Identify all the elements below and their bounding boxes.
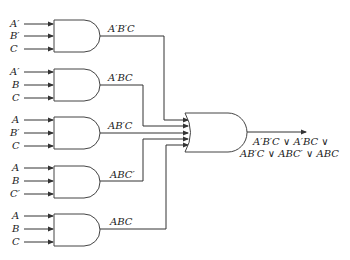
gate4-input-1-label: A xyxy=(11,162,19,173)
gate3-output-label: AB′C xyxy=(107,120,133,131)
logic-circuit-diagram: A′ B′ C A′B′C A′ B C A′BC A B′ C AB′C A … xyxy=(0,0,350,260)
gate1-output-label: A′B′C xyxy=(107,23,135,34)
gate2-input-2-label: B xyxy=(11,79,19,90)
gate5-input-3-label: C xyxy=(12,236,20,247)
and-gate-3-body xyxy=(54,117,100,149)
gate3-input-3-label: C xyxy=(12,140,20,151)
gate2-input-3-label: C xyxy=(12,92,20,103)
and-gate-1-body xyxy=(54,20,100,52)
gate3-input-1-label: A xyxy=(11,114,19,125)
gate2-output-label: A′BC xyxy=(107,72,133,83)
gate5-input-1-label: A xyxy=(11,210,19,221)
gate4-output-label: ABC′ xyxy=(109,169,135,180)
gate4-input-2-label: B xyxy=(11,175,19,186)
and-gate-5: A B C ABC xyxy=(11,145,188,247)
and-gate-2-body xyxy=(54,69,100,101)
gate1-input-3-label: C xyxy=(10,43,18,54)
gate2-input-1-label: A′ xyxy=(9,66,20,77)
or-gate: A′B′C ∨ A′BC ∨ AB′C ∨ ABC′ ∨ ABC xyxy=(185,113,339,159)
gate4-input-3-label: C′ xyxy=(10,188,21,199)
gate1-input-2-label: B′ xyxy=(9,30,20,41)
gate5-input-2-label: B xyxy=(11,223,19,234)
gate3-input-2-label: B′ xyxy=(9,127,20,138)
and-gate-3: A B′ C AB′C xyxy=(9,114,188,151)
or-gate-body xyxy=(185,113,247,152)
and-gate-5-body xyxy=(54,214,100,246)
and-gate-4: A B C′ ABC′ xyxy=(10,139,188,199)
and-gate-1: A′ B′ C A′B′C xyxy=(9,18,188,120)
gate5-output-label: ABC xyxy=(109,216,133,227)
or-output-label-line2: AB′C ∨ ABC′ ∨ ABC xyxy=(239,148,339,159)
and-gate-2: A′ B C A′BC xyxy=(9,66,188,126)
or-output-label-line1: A′B′C ∨ A′BC ∨ xyxy=(252,136,329,147)
gate1-input-1-label: A′ xyxy=(9,18,20,29)
and-gate-4-body xyxy=(54,166,100,198)
